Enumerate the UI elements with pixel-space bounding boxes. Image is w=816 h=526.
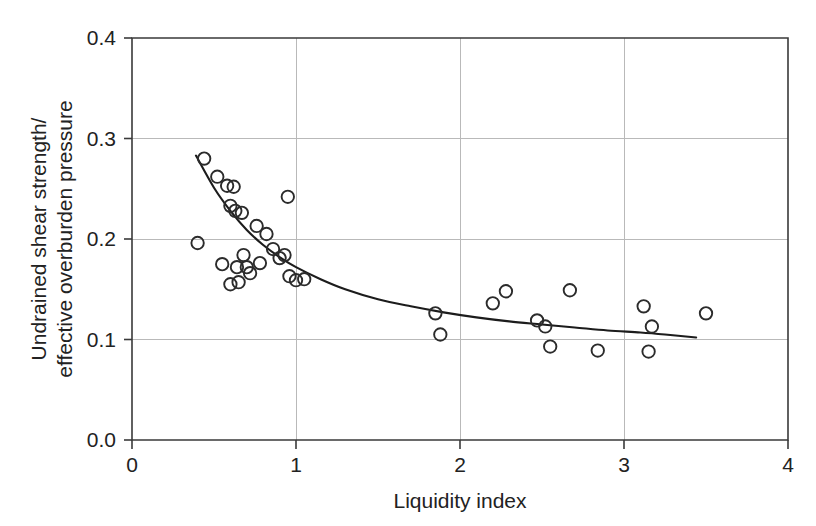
y-axis-title-line1: Undrained shear strength/: [27, 117, 50, 360]
y-tick-label: 0.4: [87, 26, 117, 49]
x-tick-label: 2: [454, 453, 466, 476]
y-tick-label: 0.2: [87, 227, 116, 250]
y-tick-label: 0.1: [87, 328, 116, 351]
x-tick-label: 3: [618, 453, 630, 476]
plot-background: [0, 0, 816, 526]
x-axis-title: Liquidity index: [393, 489, 527, 512]
y-tick-label: 0.3: [87, 127, 116, 150]
x-tick-label: 4: [782, 453, 794, 476]
scatter-plot: 01234 0.00.10.20.30.4 Liquidity index Un…: [0, 0, 816, 526]
y-tick-label: 0.0: [87, 428, 116, 451]
chart-container: 01234 0.00.10.20.30.4 Liquidity index Un…: [0, 0, 816, 526]
x-tick-label: 1: [290, 453, 302, 476]
y-axis-title-line2: effective overburden pressure: [53, 100, 76, 377]
x-tick-label: 0: [126, 453, 138, 476]
